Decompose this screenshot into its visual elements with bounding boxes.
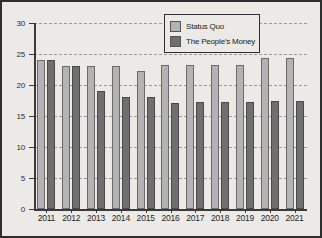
y-axis-tick-label: 10 bbox=[2, 143, 25, 152]
bar[interactable] bbox=[221, 102, 229, 209]
bar[interactable] bbox=[196, 102, 204, 209]
x-axis-tick-label: 2018 bbox=[211, 213, 229, 223]
bar[interactable] bbox=[62, 66, 70, 209]
legend-label-the-peoples-money: The People's Money bbox=[186, 37, 255, 46]
bar[interactable] bbox=[271, 101, 279, 209]
bar[interactable] bbox=[161, 65, 169, 209]
bar[interactable] bbox=[286, 58, 294, 209]
y-axis-tick-label: 30 bbox=[2, 19, 25, 28]
bar-group bbox=[108, 23, 133, 209]
legend-label-status-quo: Status Quo bbox=[186, 22, 224, 31]
legend-item[interactable]: Status Quo bbox=[170, 21, 254, 32]
bar[interactable] bbox=[72, 66, 80, 209]
y-axis-tick-label: 5 bbox=[2, 174, 25, 183]
bar[interactable] bbox=[171, 103, 179, 209]
legend-item[interactable]: The People's Money bbox=[170, 36, 254, 47]
x-axis-tick-label: 2017 bbox=[186, 213, 204, 223]
x-axis-tick-label: 2014 bbox=[112, 213, 130, 223]
bar[interactable] bbox=[147, 97, 155, 209]
x-axis-tick-label: 2015 bbox=[137, 213, 155, 223]
x-axis-tick-label: 2016 bbox=[161, 213, 179, 223]
bar[interactable] bbox=[246, 102, 254, 209]
bar-group bbox=[59, 23, 84, 209]
y-axis-tick-label: 15 bbox=[2, 112, 25, 121]
x-axis-tick-label: 2011 bbox=[38, 213, 55, 223]
bar[interactable] bbox=[211, 65, 219, 209]
y-axis-tick-label: 20 bbox=[2, 81, 25, 90]
bar[interactable] bbox=[97, 91, 105, 209]
bar[interactable] bbox=[47, 60, 55, 209]
bar[interactable] bbox=[112, 66, 120, 209]
bar[interactable] bbox=[236, 65, 244, 209]
x-axis-tick-label: 2021 bbox=[286, 213, 304, 223]
chart-frame: 051015202530 201120122013201420152016201… bbox=[0, 0, 322, 238]
bar-group bbox=[282, 23, 307, 209]
bar[interactable] bbox=[261, 58, 269, 209]
x-axis-tick-label: 2012 bbox=[62, 213, 80, 223]
y-axis-tick-label: 0 bbox=[2, 205, 25, 214]
legend-swatch-status-quo bbox=[170, 21, 181, 32]
bar-group bbox=[84, 23, 109, 209]
bar-group bbox=[34, 23, 59, 209]
bar[interactable] bbox=[186, 65, 194, 209]
y-axis-tick-label: 25 bbox=[2, 50, 25, 59]
bar[interactable] bbox=[137, 71, 145, 209]
x-axis-tick-label: 2020 bbox=[261, 213, 279, 223]
bar[interactable] bbox=[87, 66, 95, 209]
bar-group bbox=[257, 23, 282, 209]
bar[interactable] bbox=[37, 60, 45, 209]
legend-swatch-the-peoples-money bbox=[170, 36, 181, 47]
bar[interactable] bbox=[296, 101, 304, 210]
bar-group bbox=[133, 23, 158, 209]
chart-legend: Status Quo The People's Money bbox=[164, 14, 260, 53]
bar[interactable] bbox=[122, 97, 130, 209]
x-axis-tick-label: 2019 bbox=[236, 213, 254, 223]
x-axis-tick-label: 2013 bbox=[87, 213, 105, 223]
